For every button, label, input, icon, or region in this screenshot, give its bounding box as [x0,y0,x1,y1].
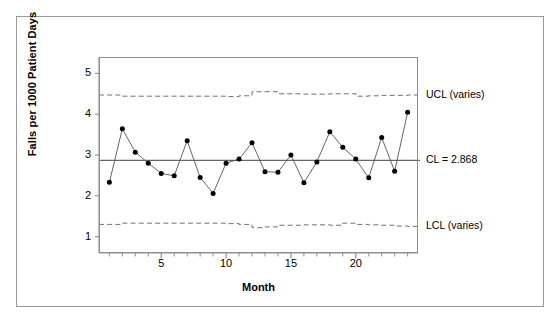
plot-area [99,57,418,253]
cl-label: CL = 2.868 [426,154,477,165]
control-chart-figure: Falls per 1000 Patient Days Month 123455… [0,0,559,322]
ucl-label: UCL (varies) [426,89,485,100]
x-tick-label: 20 [341,258,371,269]
x-axis-title: Month [99,281,418,293]
x-tick-label: 10 [211,258,241,269]
y-tick-label: 4 [67,108,91,119]
y-axis-title: Falls per 1000 Patient Days [26,0,38,184]
y-tick-label: 1 [67,231,91,242]
y-tick-label: 3 [67,149,91,160]
y-tick-label: 2 [67,190,91,201]
x-tick-label: 5 [146,258,176,269]
y-tick-label: 5 [67,67,91,78]
x-tick-label: 15 [276,258,306,269]
lcl-label: LCL (varies) [426,220,483,231]
